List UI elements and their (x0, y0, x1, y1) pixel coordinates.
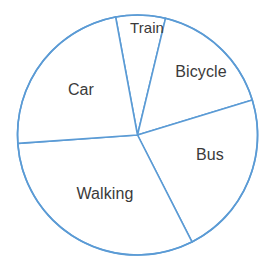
pie-slice-label-bicycle: Bicycle (175, 64, 226, 80)
pie-slice-label-car: Car (68, 82, 94, 98)
pie-slices-group (17, 15, 257, 255)
pie-chart: TrainBicycleBusWalkingCar (0, 0, 268, 272)
pie-slice-label-bus: Bus (196, 147, 224, 163)
pie-chart-svg (0, 0, 268, 272)
pie-slice-label-train: Train (130, 20, 164, 35)
pie-slice-label-walking: Walking (76, 186, 133, 202)
